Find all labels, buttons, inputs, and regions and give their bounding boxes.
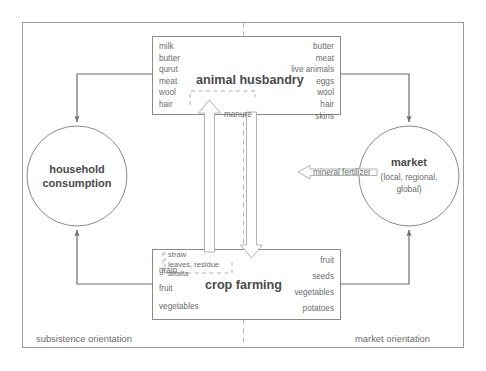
- output-item: hair: [253, 99, 334, 111]
- output-item: potatoes: [248, 301, 334, 317]
- output-item: skins: [253, 111, 334, 123]
- output-item: wool: [159, 87, 180, 99]
- household-line-1: household: [17, 162, 137, 176]
- output-item: meat: [159, 76, 180, 88]
- animal-husbandry-title: animal husbandry: [196, 73, 304, 87]
- output-item: hair: [159, 99, 180, 111]
- output-item: vegetables: [159, 298, 199, 316]
- output-item: fruit: [159, 280, 199, 298]
- crop-farming-title: crop farming: [205, 278, 282, 292]
- output-item: butter: [159, 53, 180, 65]
- output-item: milk: [159, 41, 180, 53]
- output-item: fruit: [248, 253, 334, 269]
- output-item: wool: [253, 87, 334, 99]
- market-scope-line-2: global): [349, 184, 469, 196]
- diagram-canvas: milk butter qurut meat wool hair butter …: [0, 0, 486, 371]
- arrow-animal-to-market: [341, 74, 410, 122]
- output-item: meat: [253, 53, 334, 65]
- fodder-item: leaves, residue: [168, 260, 219, 270]
- household-line-2: consumption: [17, 176, 137, 190]
- animal-husbandry-subsistence-outputs: milk butter qurut meat wool hair: [159, 41, 180, 111]
- output-item: qurut: [159, 64, 180, 76]
- market-title: market: [349, 155, 469, 169]
- crop-farming-fodder-inputs: straw leaves, residue alfalfa: [168, 250, 219, 279]
- arrow-animal-to-household: [77, 74, 153, 122]
- output-item: butter: [253, 41, 334, 53]
- block-arrow-fodder-up: [199, 100, 221, 252]
- arrow-crop-to-market: [341, 230, 410, 284]
- manure-label: manure: [224, 110, 252, 119]
- market-orientation-label: market orientation: [355, 333, 430, 344]
- mineral-fertilizer-label: mineral fertilizer: [313, 168, 371, 177]
- household-consumption-label: household consumption: [17, 162, 137, 190]
- arrow-crop-to-household: [77, 230, 153, 284]
- fodder-item: straw: [168, 250, 219, 260]
- market-label: market: [349, 155, 469, 169]
- subsistence-orientation-label: subsistence orientation: [36, 333, 132, 344]
